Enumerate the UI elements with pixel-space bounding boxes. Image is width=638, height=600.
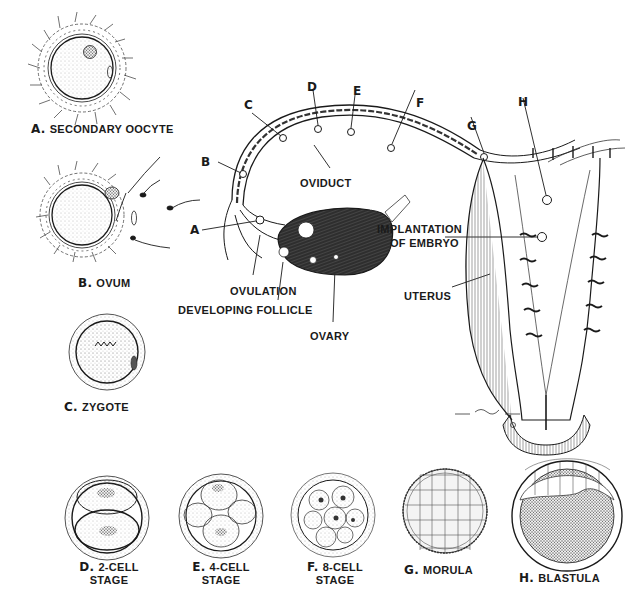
stage-label-secondary-oocyte: A.SECONDARY OOCYTE	[31, 122, 174, 136]
stage-label-morula: G.MORULA	[404, 563, 473, 577]
marker-d: D	[307, 80, 317, 94]
stage-label-eight-cell: F.8-CELL STAGE	[302, 560, 368, 586]
marker-c: C	[244, 98, 253, 112]
marker-a: A	[190, 223, 199, 237]
label-oviduct: OVIDUCT	[300, 177, 352, 189]
blastula-illustration	[512, 459, 622, 571]
uterus-illustration	[455, 140, 625, 455]
label-developing-follicle: DEVELOPING FOLLICLE	[178, 304, 313, 316]
morula-illustration	[403, 469, 487, 553]
marker-b: B	[201, 155, 210, 169]
label-ovary: OVARY	[310, 330, 349, 342]
four-cell-stage-illustration	[179, 474, 263, 558]
label-ovulation: OVULATION	[230, 285, 297, 297]
eight-cell-stage-illustration	[291, 473, 375, 557]
ovum-illustration	[36, 157, 200, 262]
label-implantation: IMPLANTATION	[377, 223, 462, 235]
zygote-illustration	[69, 314, 145, 390]
stage-label-two-cell: D.2-CELL STAGE	[76, 560, 142, 586]
marker-f: F	[416, 96, 424, 110]
stage-label-zygote: C.ZYGOTE	[64, 400, 129, 414]
marker-g: G	[467, 119, 477, 133]
two-cell-stage-illustration	[65, 476, 149, 560]
marker-e: E	[353, 84, 361, 98]
marker-h: H	[518, 95, 528, 109]
diagram-artwork	[0, 0, 638, 600]
stage-label-blastula: H.BLASTULA	[519, 571, 600, 585]
stage-label-four-cell: E.4-CELL STAGE	[188, 560, 254, 586]
label-of-embryo: OF EMBRYO	[390, 237, 459, 249]
secondary-oocyte-illustration	[28, 12, 136, 125]
stage-label-ovum: B.OVUM	[78, 276, 131, 290]
label-uterus: UTERUS	[404, 290, 451, 302]
ovary-illustration	[278, 195, 410, 275]
